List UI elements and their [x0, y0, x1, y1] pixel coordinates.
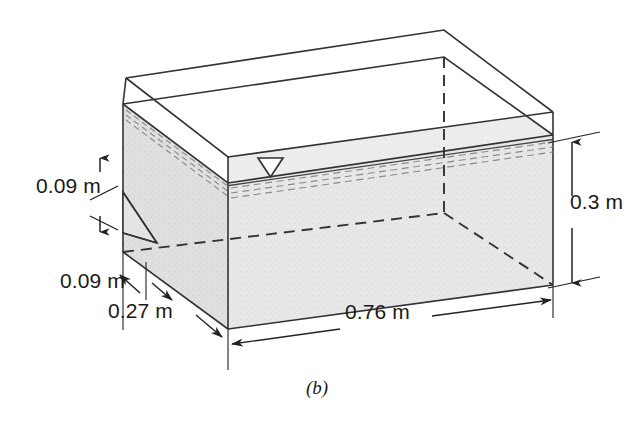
dimension-label-0-27-m: 0.27 m: [108, 299, 173, 323]
soil-tank-isometric-drawing: [0, 0, 629, 423]
figure-caption: (b): [306, 377, 328, 399]
dimension-label-0-09-m-lower: 0.09 m: [60, 269, 125, 293]
dimension-label-0-09-m-upper: 0.09 m: [36, 174, 101, 198]
dimension-label-0-76-m: 0.76 m: [345, 300, 410, 324]
dimension-label-0-3-m: 0.3 m: [570, 190, 623, 214]
figure-canvas: 0.09 m 0.09 m 0.27 m 0.76 m 0.3 m (b): [0, 0, 629, 423]
